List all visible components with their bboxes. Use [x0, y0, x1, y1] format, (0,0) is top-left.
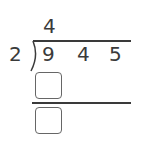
dividend-digit-1: 9 [42, 44, 55, 64]
subtraction-line [32, 102, 131, 104]
quotient-digit-1: 4 [43, 16, 56, 36]
divisor: 2 [9, 44, 22, 64]
answer-box-1[interactable] [35, 72, 62, 99]
dividend-digit-2: 4 [77, 44, 90, 64]
answer-box-2[interactable] [35, 107, 62, 134]
division-bracket-icon [27, 40, 39, 72]
dividend-digit-3: 5 [109, 44, 122, 64]
